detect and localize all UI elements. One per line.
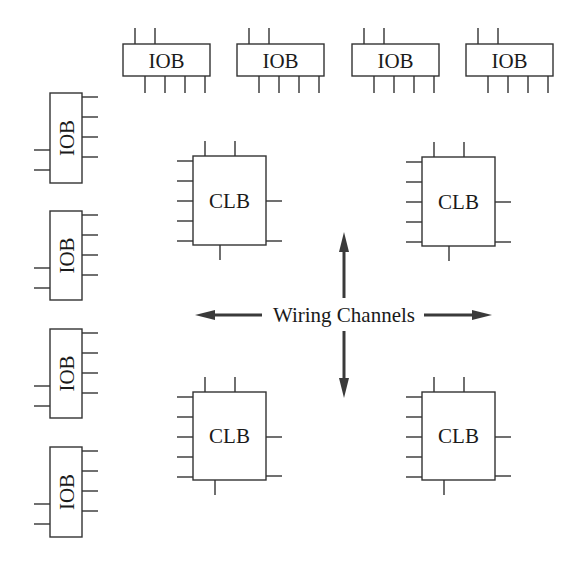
top-iob-4: IOB [466,28,553,93]
arrow-left-icon [195,310,215,320]
clb-2: CLB [406,142,511,261]
block-label: CLB [438,190,479,214]
block-label: IOB [55,474,79,510]
arrow-down-icon [339,378,349,398]
block-label: IOB [55,237,79,273]
block-label: IOB [377,49,413,73]
top-iob-3: IOB [352,28,439,93]
top-iob-1: IOB [123,28,210,93]
block-label: CLB [209,189,250,213]
clb-4: CLB [406,377,511,495]
left-iob-3: IOB [34,329,98,418]
block-label: IOB [148,49,184,73]
clb-1: CLB [177,141,282,260]
block-label: IOB [55,120,79,156]
arrow-right-icon [472,310,492,320]
left-iob-4: IOB [34,447,98,537]
block-label: IOB [262,49,298,73]
wiring-channels: Wiring Channels [195,232,492,398]
top-iob-2: IOB [237,28,324,93]
fpga-diagram: IOBIOBIOBIOBIOBIOBIOBIOBCLBCLBCLBCLBWiri… [0,0,579,563]
block-label: CLB [438,424,479,448]
left-iob-2: IOB [34,211,98,300]
arrow-up-icon [339,232,349,252]
block-label: IOB [491,49,527,73]
block-label: IOB [55,355,79,391]
left-iob-1: IOB [34,93,98,183]
block-label: CLB [209,424,250,448]
clb-3: CLB [177,377,282,495]
wiring-channels-label: Wiring Channels [273,303,415,327]
